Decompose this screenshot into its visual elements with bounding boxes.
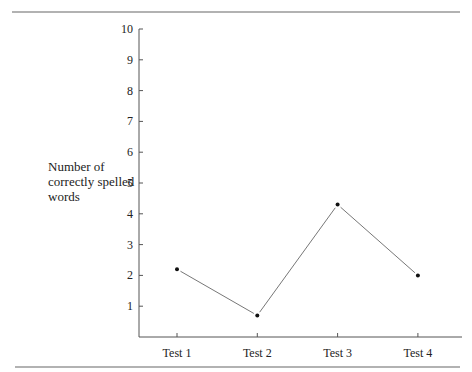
data-point [336,203,340,207]
y-tick-label: 3 [127,238,133,252]
series-line-segment [180,271,253,313]
y-axis-label-line-3: words [48,189,80,204]
x-tick-label: Test 3 [323,346,352,360]
data-point [416,273,420,277]
y-tick-label: 7 [127,114,133,128]
series-line-segment [260,208,336,312]
series-group [175,203,420,318]
y-axis-label: Number of correctly spelled words [48,159,138,204]
y-tick-label: 2 [127,268,133,282]
y-tick-label: 10 [121,22,133,36]
line-chart: 12345678910 Test 1Test 2Test 3Test 4 Num… [0,0,472,372]
data-point [175,267,179,271]
data-point [255,313,259,317]
y-axis-label-line-1: Number of [48,159,105,174]
series-line-segment [341,207,415,273]
y-tick-label: 6 [127,145,133,159]
y-tick-label: 8 [127,84,133,98]
y-tick-label: 4 [127,207,133,221]
x-tick-label: Test 4 [403,346,432,360]
y-tick-label: 9 [127,53,133,67]
x-tick-label: Test 2 [243,346,272,360]
y-ticks: 12345678910 [121,22,143,313]
y-axis-label-line-2: correctly spelled [48,174,135,189]
x-tick-label: Test 1 [163,346,192,360]
y-tick-label: 1 [127,299,133,313]
